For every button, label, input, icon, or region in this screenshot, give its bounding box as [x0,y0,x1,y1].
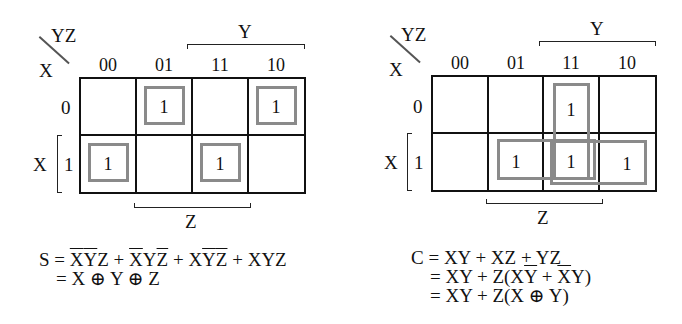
corner-col-vars: YZ [401,25,426,44]
row-header-1: 1 [414,153,424,172]
y-bracket-label: Y [238,22,252,41]
y-bracket [187,44,305,49]
z-bracket-label: Z [185,212,197,231]
row-header-1: 1 [64,155,74,174]
group-minterm-2 [256,86,297,125]
group-minterm-7 [200,143,241,182]
group-minterm-1 [144,86,185,125]
y-bracket [539,41,656,46]
col-header-00: 00 [80,56,136,74]
col-header-00: 00 [432,54,488,72]
corner-col-vars: YZ [51,26,76,45]
x-bracket-label: X [33,155,47,174]
corner-row-var: X [39,61,53,80]
col-header-11: 11 [543,54,599,72]
x-bracket-label: X [384,153,398,172]
y-bracket-label: Y [590,19,604,38]
col-header-01: 01 [136,56,192,74]
col-header-11: 11 [192,56,248,74]
carry-equation-line3: = XY + Z(X ⊕ Y) [430,286,569,305]
sum-equation-line1: S = XYZ + XYZ + XYZ + XYZ [39,250,287,269]
col-header-10: 10 [248,56,304,74]
carry-equation-line2: = XY + Z(XY + XY) [430,267,591,286]
col-header-10: 10 [599,54,655,72]
sum-equation-line2: = X ⊕ Y ⊕ Z [56,269,160,288]
x-bracket [57,135,62,193]
z-bracket [134,203,251,208]
row-header-0: 0 [61,98,71,117]
carry-equation-line1: C = XY + XZ + YZ [411,248,561,267]
z-bracket [486,199,603,204]
col-header-01: 01 [488,54,544,72]
corner-row-var: X [389,60,403,79]
group-xy [550,140,647,185]
row-header-0: 0 [413,97,423,116]
x-bracket [407,133,412,191]
group-minterm-4 [88,143,129,182]
z-bracket-label: Z [537,208,549,227]
